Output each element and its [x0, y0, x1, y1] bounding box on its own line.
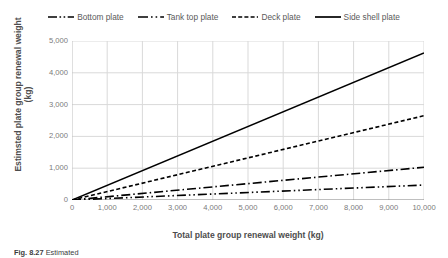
y-axis-tick-label: 1,000	[28, 164, 68, 172]
figure-caption-number: Fig. 8.27	[14, 248, 44, 257]
y-axis-tick-label: 5,000	[28, 37, 68, 45]
x-axis-tick-label: 10,000	[402, 204, 446, 212]
legend-line-deck-plate	[232, 13, 258, 21]
legend-label-tank-top-plate: Tank top plate	[167, 13, 219, 21]
legend-label-bottom-plate: Bottom plate	[77, 13, 124, 21]
legend-item-bottom-plate: Bottom plate	[48, 13, 124, 21]
gridlines	[72, 41, 424, 200]
legend-item-tank-top-plate: Tank top plate	[138, 13, 219, 21]
x-axis-tick-labels: 01,0002,0003,0004,0005,0006,0007,0008,00…	[72, 204, 424, 216]
figure-caption-text: Estimated	[46, 248, 79, 257]
legend-line-tank-top-plate	[138, 13, 164, 21]
legend-label-deck-plate: Deck plate	[261, 13, 300, 21]
y-axis-tick-label: 3,000	[28, 101, 68, 109]
y-axis-tick-label: 4,000	[28, 69, 68, 77]
chart-legend: Bottom plate Tank top plate Deck plate S…	[0, 9, 448, 25]
y-axis-tick-label: 0	[28, 196, 68, 204]
y-axis-tick-label: 2,000	[28, 132, 68, 140]
legend-line-side-shell-plate	[315, 13, 341, 21]
figure-caption: Fig. 8.27 Estimated	[14, 248, 444, 257]
legend-item-side-shell-plate: Side shell plate	[315, 13, 400, 21]
x-axis-title: Total plate group renewal weight (kg)	[72, 230, 424, 240]
legend-item-deck-plate: Deck plate	[232, 13, 300, 21]
figure-chart: Bottom plate Tank top plate Deck plate S…	[0, 0, 448, 258]
legend-label-side-shell-plate: Side shell plate	[344, 13, 400, 21]
plot-area	[72, 41, 424, 200]
legend-line-bottom-plate	[48, 13, 74, 21]
plot-svg	[72, 41, 424, 200]
